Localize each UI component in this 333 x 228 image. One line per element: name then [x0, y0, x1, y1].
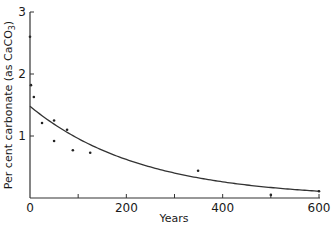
x-axis-title: Years [158, 212, 188, 225]
y-tick-label: 2 [18, 67, 26, 81]
data-point [197, 169, 200, 172]
y-tick-label: 3 [18, 5, 26, 19]
x-tick-label: 200 [115, 201, 138, 215]
chart: 0200400600123 Years Per cent carbonate (… [0, 0, 333, 228]
y-axis-title-main: Per cent carbonate (as CaCO [2, 30, 15, 189]
x-tick-label: 600 [308, 201, 331, 215]
axes: 0200400600123 [18, 5, 330, 215]
data-point [318, 190, 321, 193]
data-point [72, 149, 75, 152]
fitted-curve [30, 106, 319, 191]
data-point [41, 122, 44, 125]
y-axis-title: Per cent carbonate (as CaCO3) [2, 21, 17, 189]
data-point [53, 119, 56, 122]
data-point [66, 129, 69, 132]
data-point [53, 140, 56, 143]
data-point [89, 151, 92, 154]
y-tick-label: 1 [18, 129, 26, 143]
data-point [33, 96, 36, 99]
y-axis-title-end: ) [2, 21, 15, 25]
x-tick-label: 0 [26, 201, 34, 215]
x-tick-label: 400 [211, 201, 234, 215]
plot-area [29, 36, 321, 197]
